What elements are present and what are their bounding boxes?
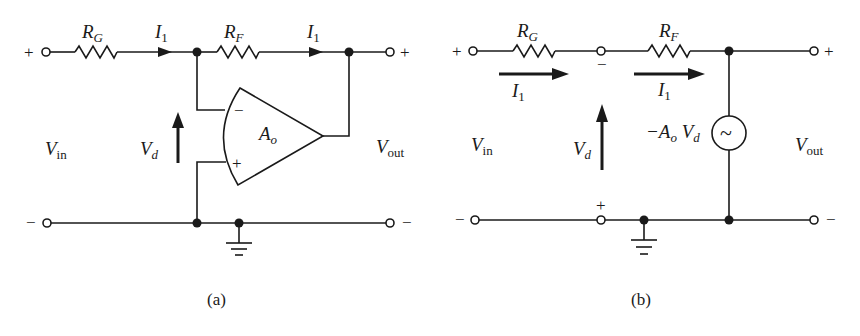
terminal-in-plus xyxy=(469,47,477,55)
junction-node xyxy=(193,48,202,57)
junction-node xyxy=(725,216,734,225)
current-arrow-icon xyxy=(309,47,323,57)
vout-label: Vout xyxy=(795,134,824,158)
resistor-rf-symbol xyxy=(217,46,259,58)
vd-arrowhead-icon xyxy=(172,112,184,128)
sign-label: − xyxy=(826,210,836,229)
caption-b: (b) xyxy=(631,290,651,309)
rg-label: RG xyxy=(516,20,539,44)
sign-label: − xyxy=(455,210,465,229)
rg-label: RG xyxy=(81,21,104,45)
i1-label: I1 xyxy=(154,21,168,45)
caption-a: (a) xyxy=(207,290,226,309)
circuit-figure: − + Ao + − + − RG I1 RF I1 Vin Vout Vd xyxy=(0,0,860,336)
node-plus-sign: + xyxy=(596,196,606,215)
i1-label: I1 xyxy=(657,79,671,103)
junction-node xyxy=(345,48,354,57)
panel-b-equivalent-circuit: ~ − + + − + − RG RF I1 I1 Vin Vout Vd xyxy=(452,20,836,309)
rf-label: RF xyxy=(223,21,245,45)
ac-source-symbol: ~ xyxy=(720,120,732,145)
terminal-out-plus xyxy=(386,48,394,56)
source-gain-label: −Ao Vd xyxy=(646,121,700,145)
terminal-out-minus xyxy=(386,219,394,227)
panel-a-inverting-amplifier: − + Ao + − + − RG I1 RF I1 Vin Vout Vd xyxy=(24,21,412,309)
current-arrowhead-icon xyxy=(552,68,569,80)
i1-label: I1 xyxy=(511,80,525,104)
sign-label: + xyxy=(24,43,34,62)
node-minus-sign: − xyxy=(597,55,607,74)
terminal-in-minus xyxy=(43,219,51,227)
terminal-out-plus xyxy=(810,47,818,55)
opamp-plus-sign: + xyxy=(232,154,242,173)
wire-inverting-input xyxy=(197,52,225,110)
vd-label: Vd xyxy=(140,138,159,162)
vd-arrowhead-icon xyxy=(596,104,608,122)
opamp-gain-label: Ao xyxy=(257,123,278,147)
node-inverting xyxy=(597,47,605,55)
terminal-in-minus xyxy=(471,216,479,224)
rf-label: RF xyxy=(658,20,680,44)
sign-label: + xyxy=(452,42,462,61)
resistor-rg-symbol xyxy=(75,46,117,58)
vin-label: Vin xyxy=(471,134,493,158)
sign-label: − xyxy=(402,213,412,232)
wire-noninverting-input xyxy=(197,162,226,223)
current-arrowhead-icon xyxy=(688,68,705,80)
junction-node xyxy=(193,219,202,228)
junction-node xyxy=(725,47,734,56)
vin-label: Vin xyxy=(45,138,67,162)
vd-label: Vd xyxy=(573,138,592,162)
opamp-minus-sign: − xyxy=(234,101,244,120)
wire-output-feedback xyxy=(323,52,349,136)
resistor-rf-symbol xyxy=(648,45,690,57)
junction-node xyxy=(235,219,244,228)
resistor-rg-symbol xyxy=(513,45,555,57)
vout-label: Vout xyxy=(376,136,405,160)
terminal-out-minus xyxy=(810,216,818,224)
junction-node xyxy=(640,216,649,225)
terminal-in-plus xyxy=(42,48,50,56)
current-arrow-icon xyxy=(158,47,172,57)
sign-label: + xyxy=(824,42,834,61)
sign-label: + xyxy=(400,43,410,62)
sign-label: − xyxy=(26,213,36,232)
node-noninverting xyxy=(597,216,605,224)
i1-label: I1 xyxy=(306,21,320,45)
